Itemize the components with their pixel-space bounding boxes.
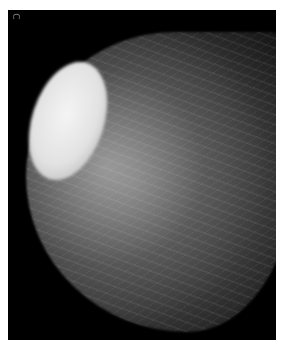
orientation-marker: C: [11, 13, 20, 19]
mammogram-image: C: [8, 10, 276, 340]
